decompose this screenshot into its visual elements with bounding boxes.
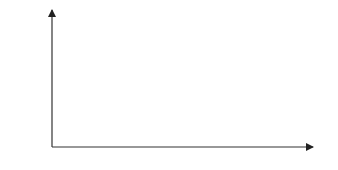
frequency-response-diagram <box>0 0 338 170</box>
